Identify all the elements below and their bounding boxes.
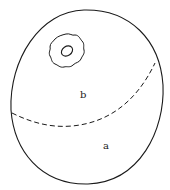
wavy-ring [49,34,84,67]
region-label-b: b [80,90,86,100]
outer-outline [11,10,163,184]
inner-oval [59,44,74,58]
region-label-a: a [103,141,109,151]
